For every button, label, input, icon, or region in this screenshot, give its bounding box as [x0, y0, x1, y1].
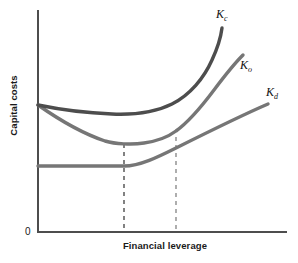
series-label-kd-base: K	[266, 85, 274, 99]
x-axis-title: Financial leverage	[0, 240, 298, 251]
y-axis-title: Capital costs	[8, 51, 19, 161]
chart-plot-area	[0, 0, 298, 263]
series-label-kd-sub: d	[274, 92, 278, 101]
origin-tick-label: 0	[25, 226, 31, 237]
capital-structure-chart: 0 Financial leverage Capital costs Kc Ko…	[0, 0, 298, 263]
series-label-ko: Ko	[240, 58, 252, 74]
series-label-ko-base: K	[240, 58, 248, 72]
series-label-ko-sub: o	[248, 65, 252, 74]
series-label-kc-base: K	[216, 7, 224, 21]
series-kd-curve	[38, 104, 268, 166]
series-label-kc-sub: c	[224, 14, 228, 23]
series-kc-curve	[38, 28, 222, 114]
series-label-kd: Kd	[266, 85, 278, 101]
series-label-kc: Kc	[216, 7, 228, 23]
